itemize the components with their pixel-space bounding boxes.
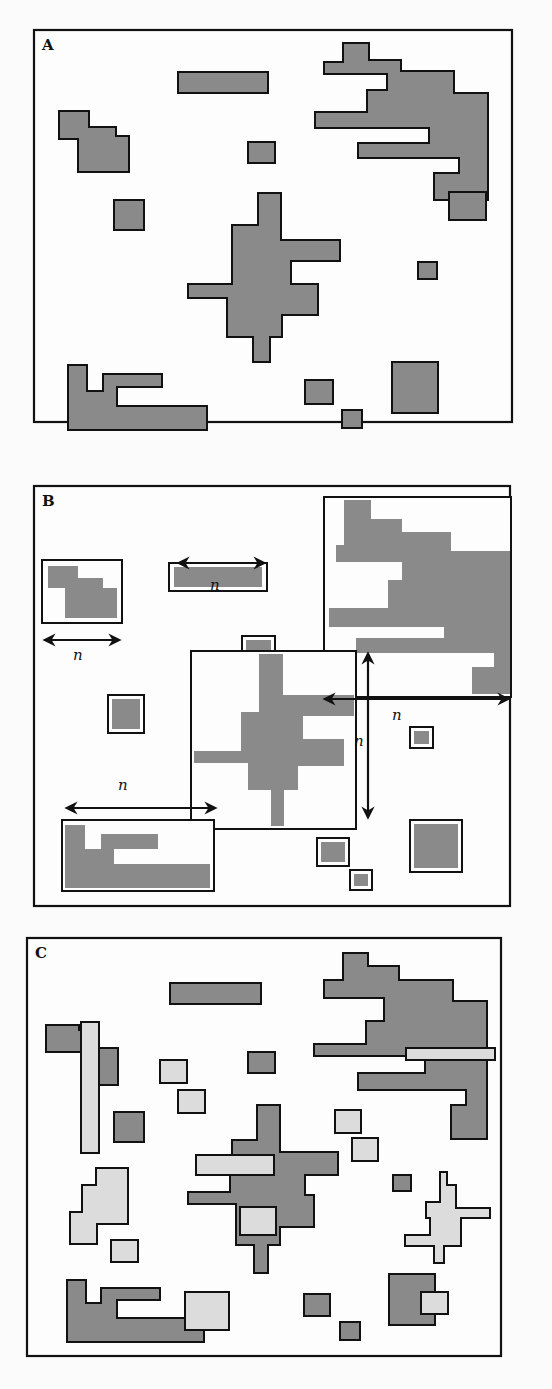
box-size-label: n bbox=[354, 732, 364, 750]
box-size-label: n bbox=[210, 576, 220, 594]
panel-label: A bbox=[41, 36, 54, 54]
patch-fill bbox=[321, 842, 345, 862]
light-patch bbox=[185, 1292, 229, 1330]
dark-patch bbox=[114, 1112, 144, 1142]
light-patch bbox=[81, 1022, 99, 1153]
light-patch bbox=[111, 1240, 138, 1262]
dark-patch bbox=[248, 1052, 275, 1073]
light-patch bbox=[421, 1292, 448, 1314]
box-window bbox=[410, 727, 433, 748]
light-patch bbox=[240, 1207, 276, 1235]
dark-patch bbox=[392, 362, 438, 413]
box-window bbox=[350, 870, 372, 890]
dark-patch bbox=[170, 983, 261, 1004]
box-size-label: n bbox=[73, 646, 83, 664]
dark-patch bbox=[393, 1175, 411, 1191]
dark-patch bbox=[114, 200, 144, 230]
light-patch bbox=[160, 1060, 187, 1083]
panel-b: nnnnnB bbox=[34, 486, 511, 906]
light-patch bbox=[406, 1048, 495, 1060]
patch-fill bbox=[354, 874, 368, 886]
dark-patch bbox=[418, 262, 437, 279]
light-patch bbox=[196, 1155, 274, 1175]
box-size-label: n bbox=[392, 706, 402, 724]
dark-patch bbox=[342, 410, 362, 428]
panel-label: B bbox=[42, 492, 55, 510]
dark-patch bbox=[449, 192, 486, 220]
landscape-patch-figure: A nnnnnB C bbox=[0, 0, 552, 1389]
dark-patch bbox=[248, 142, 275, 163]
dark-patch bbox=[305, 380, 333, 404]
dark-patch bbox=[340, 1322, 360, 1340]
box-size-label: n bbox=[118, 776, 128, 794]
dark-patch bbox=[304, 1294, 330, 1316]
box-window bbox=[108, 695, 144, 733]
dark-patch bbox=[178, 72, 268, 93]
light-patch bbox=[352, 1138, 378, 1161]
box-window bbox=[317, 838, 349, 866]
light-patch bbox=[178, 1090, 205, 1113]
box-window bbox=[191, 651, 356, 829]
patch-fill bbox=[414, 824, 458, 868]
patch-fill bbox=[414, 731, 429, 744]
box-window bbox=[62, 820, 214, 891]
box-window bbox=[42, 560, 122, 623]
panel-a: A bbox=[34, 30, 512, 430]
panel-c: C bbox=[27, 938, 501, 1356]
light-patch bbox=[335, 1110, 361, 1133]
patch-fill bbox=[112, 699, 140, 729]
panel-label: C bbox=[35, 944, 47, 962]
box-window bbox=[410, 820, 462, 872]
